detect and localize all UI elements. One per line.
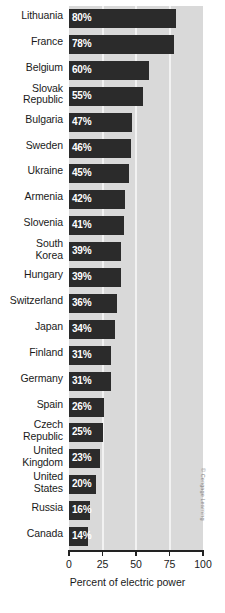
bar-row: Slovak Republic55%	[0, 84, 225, 110]
copyright-credit: © Cengage Learning	[199, 468, 206, 568]
bar-category-label: Finland	[0, 347, 63, 359]
bar-value-label: 45%	[72, 167, 91, 179]
bar-row: United Kingdom23%	[0, 446, 225, 472]
bar-category-label: Switzerland	[0, 295, 63, 307]
bar-value-label: 39%	[72, 271, 91, 283]
bar-row: Germany31%	[0, 369, 225, 395]
x-axis-title: Percent of electric power	[40, 576, 215, 588]
bar-category-label: Sweden	[0, 140, 63, 152]
bar: 78%	[69, 35, 174, 54]
bar: 42%	[69, 190, 125, 209]
bar-value-label: 14%	[72, 530, 91, 542]
bar-category-label: United States	[0, 471, 63, 494]
bar-value-label: 31%	[72, 375, 91, 387]
bar: 80%	[69, 9, 176, 28]
bar-row: Spain26%	[0, 395, 225, 421]
bar-category-label: Bulgaria	[0, 114, 63, 126]
bar-value-label: 60%	[72, 64, 91, 76]
bar-value-label: 55%	[72, 90, 91, 102]
bar-row: Czech Republic25%	[0, 420, 225, 446]
bar-category-label: Hungary	[0, 269, 63, 281]
bar-value-label: 39%	[72, 245, 91, 257]
bar-value-label: 80%	[72, 12, 91, 24]
bar: 20%	[69, 475, 96, 494]
x-axis-tick-75	[169, 550, 171, 556]
bar-category-label: Russia	[0, 502, 63, 514]
bar-category-label: Spain	[0, 399, 63, 411]
bar-category-label: Czech Republic	[0, 419, 63, 442]
bar-row: Lithuania80%	[0, 6, 225, 32]
bar: 39%	[69, 268, 121, 287]
bar-category-label: United Kingdom	[0, 445, 63, 468]
bar: 47%	[69, 113, 132, 132]
bar: 34%	[69, 320, 115, 339]
bar-row: Canada14%	[0, 524, 225, 550]
bar-row: Armenia42%	[0, 187, 225, 213]
chart-plot-rows: Lithuania80%France78%Belgium60%Slovak Re…	[0, 6, 225, 550]
bar-category-label: Armenia	[0, 191, 63, 203]
bar: 45%	[69, 164, 129, 183]
bar-row: Japan34%	[0, 317, 225, 343]
bar-value-label: 47%	[72, 116, 91, 128]
bar-category-label: Ukraine	[0, 165, 63, 177]
x-axis-tick-50	[135, 550, 137, 556]
bar: 25%	[69, 423, 103, 442]
bar-category-label: Germany	[0, 373, 63, 385]
bar-value-label: 46%	[72, 142, 91, 154]
bar-value-label: 25%	[72, 426, 91, 438]
x-axis: 0255075100 Percent of electric power	[0, 550, 225, 613]
bar-category-label: France	[0, 36, 63, 48]
bar: 14%	[69, 527, 88, 546]
bar: 26%	[69, 398, 104, 417]
x-axis-tick-25	[102, 550, 104, 556]
bar-row: France78%	[0, 32, 225, 58]
bar: 36%	[69, 294, 117, 313]
bar-row: Bulgaria47%	[0, 110, 225, 136]
bar-chart-figure: Lithuania80%France78%Belgium60%Slovak Re…	[0, 0, 225, 613]
bar-value-label: 41%	[72, 219, 91, 231]
bar: 41%	[69, 216, 124, 235]
bar: 55%	[69, 87, 143, 106]
bar-value-label: 31%	[72, 349, 91, 361]
bar-row: Switzerland36%	[0, 291, 225, 317]
bar-value-label: 26%	[72, 401, 91, 413]
bar-category-label: South Korea	[0, 238, 63, 261]
bar-row: Slovenia41%	[0, 213, 225, 239]
bar-row: Finland31%	[0, 343, 225, 369]
bar: 16%	[69, 501, 90, 520]
bar-value-label: 78%	[72, 38, 91, 50]
bar-row: Ukraine45%	[0, 161, 225, 187]
bar-row: Russia16%	[0, 498, 225, 524]
bar: 31%	[69, 372, 111, 391]
bar-row: Sweden46%	[0, 136, 225, 162]
bar-category-label: Canada	[0, 528, 63, 540]
bar-row: United States20%	[0, 472, 225, 498]
bar-row: Belgium60%	[0, 58, 225, 84]
bar-row: South Korea39%	[0, 239, 225, 265]
bar-value-label: 36%	[72, 297, 91, 309]
bar-category-label: Slovak Republic	[0, 83, 63, 106]
bar-row: Hungary39%	[0, 265, 225, 291]
bar-value-label: 16%	[72, 504, 91, 516]
bar: 23%	[69, 449, 100, 468]
bar-value-label: 34%	[72, 323, 91, 335]
bar: 60%	[69, 61, 149, 80]
bar: 31%	[69, 346, 111, 365]
bar-value-label: 42%	[72, 193, 91, 205]
x-axis-tick-0	[68, 550, 70, 556]
bar-category-label: Japan	[0, 321, 63, 333]
bar-value-label: 23%	[72, 452, 91, 464]
bar-category-label: Belgium	[0, 62, 63, 74]
bar: 46%	[69, 139, 131, 158]
bar: 39%	[69, 242, 121, 261]
bar-category-label: Slovenia	[0, 217, 63, 229]
bar-value-label: 20%	[72, 478, 91, 490]
bar-category-label: Lithuania	[0, 10, 63, 22]
